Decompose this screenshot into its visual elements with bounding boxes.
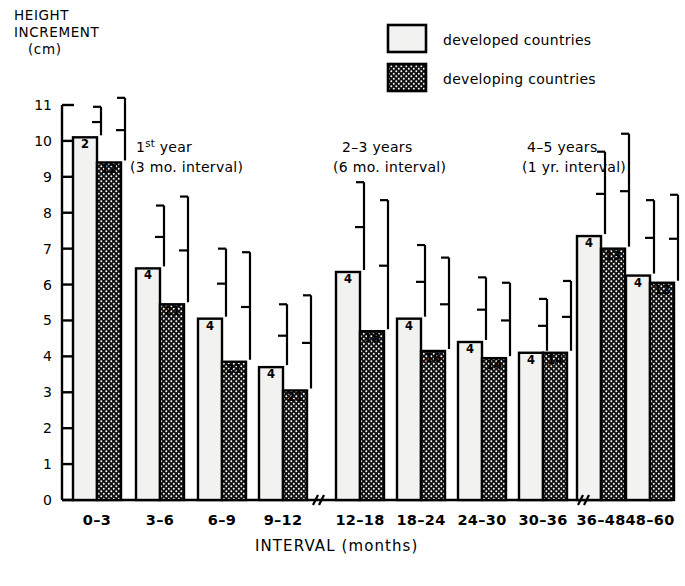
y-tick-label-5: 5 [43,312,52,328]
y-axis-tick-labels: 01234567891011 [34,97,52,508]
panel-label-3-line2: (1 yr. interval) [522,159,626,175]
bar-developed-countries-48-60 [626,276,650,500]
x-tick-label-9-12: 9–12 [264,512,303,528]
sample-size-label: 12 [654,283,670,297]
x-axis-tick-labels: 0–33–66–99–1212–1818–2424–3030–3636–4848… [83,512,675,528]
y-tick-label-1: 1 [43,456,52,472]
bar-developing-countries-3-6 [160,304,184,500]
panel-label-1-line1: 1st year [136,138,192,155]
sample-size-label: 13 [605,249,621,263]
x-axis-title: INTERVAL (months) [255,537,418,555]
sample-size-label: 18 [364,331,380,345]
height-increment-bar-chart: HEIGHT INCREMENT (cm) developed countrie… [0,0,685,586]
bar-developing-countries-24-30 [482,358,506,500]
bar-developing-countries-36-48 [601,249,625,500]
sample-size-label: 4 [144,268,152,282]
x-tick-label-6-9: 6–9 [208,512,236,528]
sample-size-label: 4 [527,353,535,367]
bar-developing-countries-48-60 [650,283,674,500]
panel-label-2-line1: 2–3 years [342,139,413,155]
sample-size-label: 16 [425,351,441,365]
y-axis-title-line3: (cm) [28,41,62,57]
x-tick-label-24-30: 24–30 [457,512,506,528]
x-tick-label-18-24: 18–24 [396,512,445,528]
panel-label-3-line1: 4–5 years [527,139,598,155]
sample-size-label: 4 [267,367,275,381]
y-tick-label-0: 0 [43,492,52,508]
y-tick-label-11: 11 [34,97,52,113]
y-tick-label-9: 9 [43,169,52,185]
panel-label-1-line2: (3 mo. interval) [130,159,243,175]
y-axis-title: HEIGHT INCREMENT (cm) [14,7,99,57]
y-tick-label-7: 7 [43,241,52,257]
y-tick-label-3: 3 [43,384,52,400]
y-tick-label-2: 2 [43,420,52,436]
sample-size-label: 4 [634,276,642,290]
panel-label-2-line2: (6 mo. interval) [333,159,446,175]
bar-developed-countries-30-36 [519,353,543,500]
y-tick-label-4: 4 [43,348,52,364]
bar-developing-countries-9-12 [283,390,307,500]
bar-developed-countries-9-12 [259,367,283,500]
bar-developed-countries-3-6 [136,268,160,500]
sample-size-label: 2 [81,137,89,151]
bar-developing-countries-6-9 [222,362,246,500]
bar-developed-countries-12-18 [336,272,360,500]
legend-swatch-developing [388,64,426,91]
x-tick-label-36-48: 36–48 [576,512,625,528]
bar-developed-countries-24-30 [458,342,482,500]
x-tick-label-30-36: 30–36 [518,512,567,528]
x-tick-label-12-18: 12–18 [335,512,384,528]
legend: developed countries developing countries [388,25,596,91]
sample-size-label: 4 [344,272,352,286]
y-tick-label-10: 10 [34,133,52,149]
bar-developing-countries-0-3 [97,162,121,500]
bar-developed-countries-0-3 [73,137,97,500]
sample-size-label: 21 [164,304,180,318]
legend-label-developed: developed countries [443,32,591,48]
sample-size-label: 12 [101,162,117,176]
x-tick-label-3-6: 3–6 [146,512,174,528]
y-tick-label-8: 8 [43,205,52,221]
bar-developing-countries-30-36 [543,353,567,500]
bar-developing-countries-12-18 [360,331,384,500]
sample-size-label: 21 [226,362,242,376]
bar-developed-countries-6-9 [198,319,222,500]
panel-labels: 1st year (3 mo. interval) 2–3 years (6 m… [130,138,626,175]
x-tick-label-48-60: 48–60 [625,512,674,528]
bar-developed-countries-36-48 [577,236,601,500]
legend-swatch-developed [388,25,426,52]
sample-size-label: 14 [547,353,563,367]
sample-size-label: 4 [206,319,214,333]
y-tick-label-6: 6 [43,277,52,293]
chart-canvas: HEIGHT INCREMENT (cm) developed countrie… [0,0,685,586]
sample-size-label: 21 [287,390,303,404]
sample-size-label: 4 [405,319,413,333]
x-tick-label-0-3: 0–3 [83,512,111,528]
sample-size-label: 14 [486,358,502,372]
bar-developing-countries-18-24 [421,351,445,500]
bars [73,137,674,500]
sample-size-label: 4 [466,342,474,356]
sample-size-label: 4 [585,236,593,250]
bar-developed-countries-18-24 [397,319,421,500]
y-axis-title-line1: HEIGHT [14,7,69,23]
legend-label-developing: developing countries [443,71,596,87]
y-axis-title-line2: INCREMENT [14,24,99,40]
